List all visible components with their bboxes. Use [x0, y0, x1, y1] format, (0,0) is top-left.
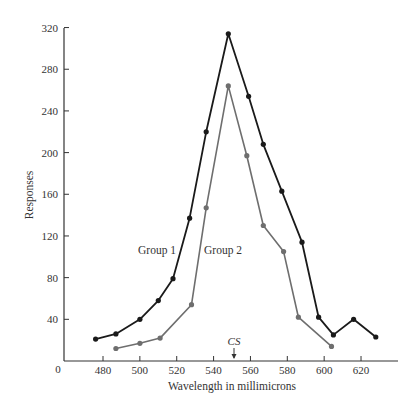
data-point — [244, 153, 249, 158]
data-point — [373, 334, 378, 339]
data-point — [226, 83, 231, 88]
x-tick-label: 620 — [353, 364, 370, 376]
data-point — [261, 223, 266, 228]
data-point — [204, 129, 209, 134]
data-point — [329, 344, 334, 349]
x-axis-title: Wavelength in millimicrons — [168, 380, 297, 393]
x-tick-label: 540 — [205, 364, 222, 376]
y-tick-label: 120 — [42, 230, 59, 242]
data-point — [93, 337, 98, 342]
y-axis-title: Responses — [23, 170, 36, 219]
group-1-label: Group 1 — [138, 244, 176, 257]
y-tick-label: 40 — [47, 313, 59, 325]
x-tick-label: 580 — [279, 364, 296, 376]
data-point — [279, 189, 284, 194]
data-point — [156, 298, 161, 303]
cs-label: CS — [228, 335, 241, 347]
cs-marker: CS — [228, 335, 241, 359]
data-point — [226, 31, 231, 36]
series-line — [96, 34, 376, 339]
cs-arrow-icon — [232, 354, 237, 359]
series-layer — [93, 31, 378, 351]
x-tick-label: 500 — [132, 364, 149, 376]
data-point — [189, 302, 194, 307]
series-line — [116, 86, 332, 349]
data-point — [316, 315, 321, 320]
data-point — [351, 317, 356, 322]
y-tick-label: 200 — [42, 147, 59, 159]
data-point — [281, 249, 286, 254]
data-point — [246, 94, 251, 99]
series-1 — [93, 31, 378, 342]
y-tick-label: 320 — [42, 22, 59, 34]
group-2-label: Group 2 — [204, 244, 242, 257]
data-point — [187, 216, 192, 221]
data-point — [331, 332, 336, 337]
x-tick-label: 560 — [242, 364, 259, 376]
y-tick-label: 280 — [42, 63, 59, 75]
data-point — [113, 331, 118, 336]
y-tick-label: 80 — [47, 272, 59, 284]
data-point — [158, 336, 163, 341]
x-tick-label: 480 — [95, 364, 112, 376]
data-point — [170, 276, 175, 281]
data-point — [113, 346, 118, 351]
data-point — [137, 317, 142, 322]
data-point — [299, 240, 304, 245]
y-tick-label: 240 — [42, 105, 59, 117]
data-point — [204, 205, 209, 210]
series-2 — [113, 83, 334, 351]
x-tick-label: 600 — [316, 364, 333, 376]
x-ticks: 480500520540560580600620 — [95, 356, 370, 376]
data-point — [296, 315, 301, 320]
x-tick-label: 520 — [168, 364, 185, 376]
line-chart: 4080120160200240280320 48050052054056058… — [0, 0, 418, 409]
origin-label: 0 — [55, 363, 61, 375]
data-point — [261, 142, 266, 147]
y-tick-label: 160 — [42, 188, 59, 200]
y-ticks: 4080120160200240280320 — [42, 22, 70, 326]
data-point — [137, 341, 142, 346]
